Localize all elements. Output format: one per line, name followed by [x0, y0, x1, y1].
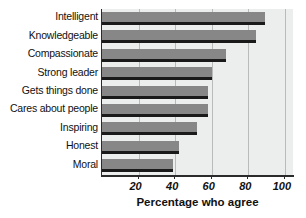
bar-fill: [102, 86, 208, 96]
gridline-100: [285, 9, 286, 175]
x-tick-mark: [284, 175, 285, 179]
x-axis-line: [101, 175, 294, 177]
x-tick-mark: [138, 175, 139, 179]
bar-shadow: [102, 151, 179, 154]
category-label: Intelligent: [0, 11, 98, 22]
bar-chart: IntelligentKnowledgeableCompassionateStr…: [0, 0, 306, 218]
x-tick-label: 40: [166, 180, 178, 192]
category-axis: IntelligentKnowledgeableCompassionateStr…: [0, 9, 98, 175]
category-label: Compassionate: [0, 48, 98, 59]
bar-shadow: [102, 22, 265, 25]
bar-fill: [102, 49, 226, 59]
bar: [102, 86, 208, 99]
bar: [102, 141, 179, 154]
bar: [102, 159, 173, 172]
plot-area: [101, 9, 293, 175]
bar: [102, 104, 208, 117]
bar-fill: [102, 67, 212, 77]
bar-shadow: [102, 96, 208, 99]
bar-fill: [102, 122, 197, 132]
x-tick-mark: [174, 175, 175, 179]
bar: [102, 67, 212, 80]
bar-shadow: [102, 169, 173, 172]
bar: [102, 30, 256, 43]
x-tick-label: 100: [273, 180, 291, 192]
x-tick-mark: [247, 175, 248, 179]
category-label: Honest: [0, 140, 98, 151]
x-tick-label: 80: [239, 180, 251, 192]
bar: [102, 12, 265, 25]
category-label: Knowledgeable: [0, 30, 98, 41]
bar-fill: [102, 159, 173, 169]
bar-shadow: [102, 132, 197, 135]
bar-fill: [102, 12, 265, 22]
x-tick-label: 20: [129, 180, 141, 192]
bar-fill: [102, 30, 256, 40]
bar: [102, 122, 197, 135]
x-axis-title: Percentage who agree: [101, 196, 294, 208]
category-label: Strong leader: [0, 67, 98, 78]
bar-shadow: [102, 114, 208, 117]
bar-shadow: [102, 40, 256, 43]
category-label: Moral: [0, 159, 98, 170]
category-label: Inspiring: [0, 122, 98, 133]
bar-fill: [102, 141, 179, 151]
category-label: Gets things done: [0, 85, 98, 96]
bar-fill: [102, 104, 208, 114]
x-tick-mark: [211, 175, 212, 179]
bar-shadow: [102, 77, 212, 80]
category-label: Cares about people: [0, 103, 98, 114]
x-tick-label: 60: [203, 180, 215, 192]
bar-shadow: [102, 59, 226, 62]
bar: [102, 49, 226, 62]
